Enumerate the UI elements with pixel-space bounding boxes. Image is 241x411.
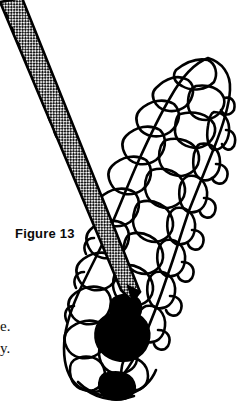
black-seed-scale-base [99, 372, 135, 400]
body-text-fragment-line-1: e. [0, 318, 10, 334]
black-seed-scale-main [95, 311, 149, 361]
figure-page: Figure 13 e. y. [0, 0, 241, 411]
body-text-fragment-line-2: y. [0, 340, 10, 356]
figure-caption: Figure 13 [15, 226, 75, 242]
pine-cone-figure-illustration [0, 0, 241, 411]
